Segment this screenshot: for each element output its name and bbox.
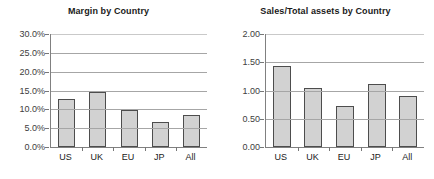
gridline [266,91,424,92]
x-tick-mark [392,147,393,151]
gridline [51,128,207,129]
x-tick-mark [113,147,114,151]
y-tick-mark [45,128,49,129]
x-tick-mark [329,147,330,151]
y-tick-mark [45,109,49,110]
bar [336,106,354,147]
x-tick-label: JP [370,152,381,162]
bar [368,84,386,147]
y-tick-label: 10.0% [19,104,45,114]
y-axis-ticks-sales-total-assets: 0.000.501.001.502.00 [217,34,260,147]
y-tick-label: 0.00 [242,142,260,152]
x-tick-label: EU [338,152,351,162]
bar [273,66,291,147]
chart-panel-sales-total-assets: Sales/Total assets by Country 0.000.501.… [217,0,434,179]
y-tick-label: 2.00 [242,29,260,39]
y-tick-label: 20.0% [19,67,45,77]
y-tick-label: 0.50 [242,114,260,124]
x-tick-label: UK [91,152,104,162]
x-tick-mark [145,147,146,151]
y-tick-label: 1.00 [242,86,260,96]
gridline [51,53,207,54]
plot-area-margin [50,34,207,148]
x-tick-mark [298,147,299,151]
bar [58,99,75,147]
x-tick-label: EU [122,152,135,162]
y-tick-mark [260,147,264,148]
gridline [51,34,207,35]
gridline [51,109,207,110]
x-tick-label: US [275,152,288,162]
y-tick-label: 5.0% [24,123,45,133]
plot-wrap-margin: 0.0%5.0%10.0%15.0%20.0%25.0%30.0% USUKEU… [0,0,217,179]
gridline [51,91,207,92]
y-tick-mark [45,147,49,148]
y-tick-mark [45,91,49,92]
y-tick-mark [260,119,264,120]
x-tick-mark [82,147,83,151]
x-tick-mark [176,147,177,151]
gridline [266,62,424,63]
bar [152,122,169,147]
charts-row: Margin by Country 0.0%5.0%10.0%15.0%20.0… [0,0,434,179]
plot-wrap-sales-total-assets: 0.000.501.001.502.00 USUKEUJPAll [217,0,434,179]
x-tick-label: JP [154,152,165,162]
bar [304,88,322,147]
x-tick-label: UK [306,152,319,162]
gridline [266,119,424,120]
y-tick-mark [260,34,264,35]
y-tick-mark [45,53,49,54]
x-tick-label: All [402,152,412,162]
y-axis-ticks-margin: 0.0%5.0%10.0%15.0%20.0%25.0%30.0% [0,34,45,147]
y-tick-mark [260,62,264,63]
bar [399,96,417,147]
y-tick-label: 15.0% [19,86,45,96]
y-tick-mark [45,34,49,35]
y-tick-label: 30.0% [19,29,45,39]
x-tick-label: US [59,152,72,162]
x-axis-labels-margin: USUKEUJPAll [50,152,206,168]
plot-area-sales-total-assets [265,34,424,148]
x-tick-mark [361,147,362,151]
bar [89,92,106,147]
y-tick-label: 1.50 [242,57,260,67]
gridline [266,34,424,35]
gridline [51,72,207,73]
x-axis-labels-sales-total-assets: USUKEUJPAll [265,152,423,168]
chart-panel-margin: Margin by Country 0.0%5.0%10.0%15.0%20.0… [0,0,217,179]
y-tick-mark [260,91,264,92]
y-tick-label: 0.0% [24,142,45,152]
y-tick-mark [45,72,49,73]
x-tick-label: All [185,152,195,162]
y-tick-label: 25.0% [19,48,45,58]
bar [183,115,200,147]
